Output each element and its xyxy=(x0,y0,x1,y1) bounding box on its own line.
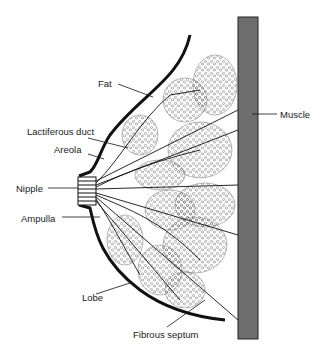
label-nipple: Nipple xyxy=(16,184,43,194)
label-fat: Fat xyxy=(98,79,112,89)
breast-anatomy-diagram: Fat Lactiferous duct Areola Nipple Ampul… xyxy=(0,0,329,358)
label-muscle: Muscle xyxy=(280,110,310,120)
label-lactiferous-duct: Lactiferous duct xyxy=(27,127,94,137)
anatomy-drawing xyxy=(0,0,329,358)
label-lobe: Lobe xyxy=(82,293,103,303)
lobules xyxy=(107,55,237,308)
label-ampulla: Ampulla xyxy=(21,214,55,224)
label-fibrous-septum: Fibrous septum xyxy=(133,330,198,340)
muscle-wall xyxy=(238,17,258,339)
label-areola: Areola xyxy=(54,145,81,155)
